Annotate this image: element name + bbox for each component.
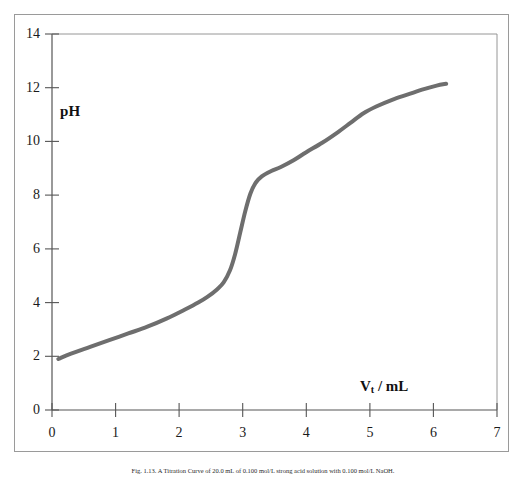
x-tick-label: 1 <box>106 426 126 440</box>
x-tick-label: 4 <box>296 426 316 440</box>
y-tick-label: 8 <box>14 188 40 202</box>
x-axis-title: Vt / mL <box>360 378 408 395</box>
y-tick-label: 14 <box>14 27 40 41</box>
y-tick-label: 4 <box>14 296 40 310</box>
y-tick-label: 12 <box>14 81 40 95</box>
y-tick-label: 2 <box>14 349 40 363</box>
x-tick-label: 5 <box>360 426 380 440</box>
y-axis-title: pH <box>60 103 80 120</box>
x-axis-title-units: / mL <box>374 378 408 394</box>
x-tick-label: 7 <box>487 426 507 440</box>
x-tick-label: 3 <box>233 426 253 440</box>
chart-canvas <box>0 0 526 477</box>
x-tick-label: 2 <box>169 426 189 440</box>
titration-chart: 14 12 10 8 6 4 2 0 0 1 2 3 4 5 6 7 pH Vt… <box>0 0 526 477</box>
x-tick-label: 6 <box>423 426 443 440</box>
titration-curve-line <box>58 84 446 359</box>
x-axis-title-symbol: V <box>360 378 371 394</box>
x-tick-label: 0 <box>42 426 62 440</box>
chart-axes <box>52 34 497 410</box>
y-tick-label: 10 <box>14 134 40 148</box>
x-axis-title-subscript: t <box>371 384 374 395</box>
y-tick-label: 6 <box>14 242 40 256</box>
y-tick-label: 0 <box>14 403 40 417</box>
figure-caption: Fig. 1.13. A Titration Curve of 20.0 mL … <box>0 464 526 477</box>
